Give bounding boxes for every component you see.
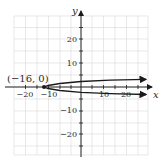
graph: −20 −10 10 20 20 10 −10 −20 y x (−16, 0): [0, 0, 166, 159]
x-tick-label: −20: [17, 90, 34, 99]
y-tick-label: −10: [60, 106, 77, 115]
y-tick-label: −20: [60, 130, 77, 139]
y-tick-label: 20: [67, 35, 77, 44]
x-tick-label: 10: [99, 90, 109, 99]
upper-branch-curve: [44, 79, 146, 87]
x-axis-label: x: [153, 89, 159, 100]
vertex-label: (−16, 0): [7, 73, 49, 84]
y-tick-label: 10: [67, 59, 77, 68]
x-tick-label: −10: [41, 90, 58, 99]
vertex-point: [42, 85, 46, 89]
y-axis-label: y: [71, 5, 78, 16]
